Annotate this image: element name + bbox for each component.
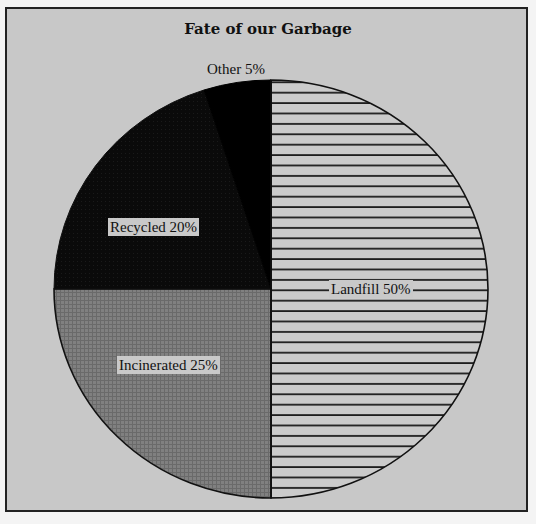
label-incinerated: Incinerated 25%	[117, 356, 220, 374]
label-landfill: Landfill 50%	[329, 280, 413, 298]
pie-chart	[0, 0, 536, 524]
label-recycled: Recycled 20%	[108, 218, 199, 236]
slice-incinerated	[54, 289, 271, 498]
label-other: Other 5%	[207, 60, 265, 78]
